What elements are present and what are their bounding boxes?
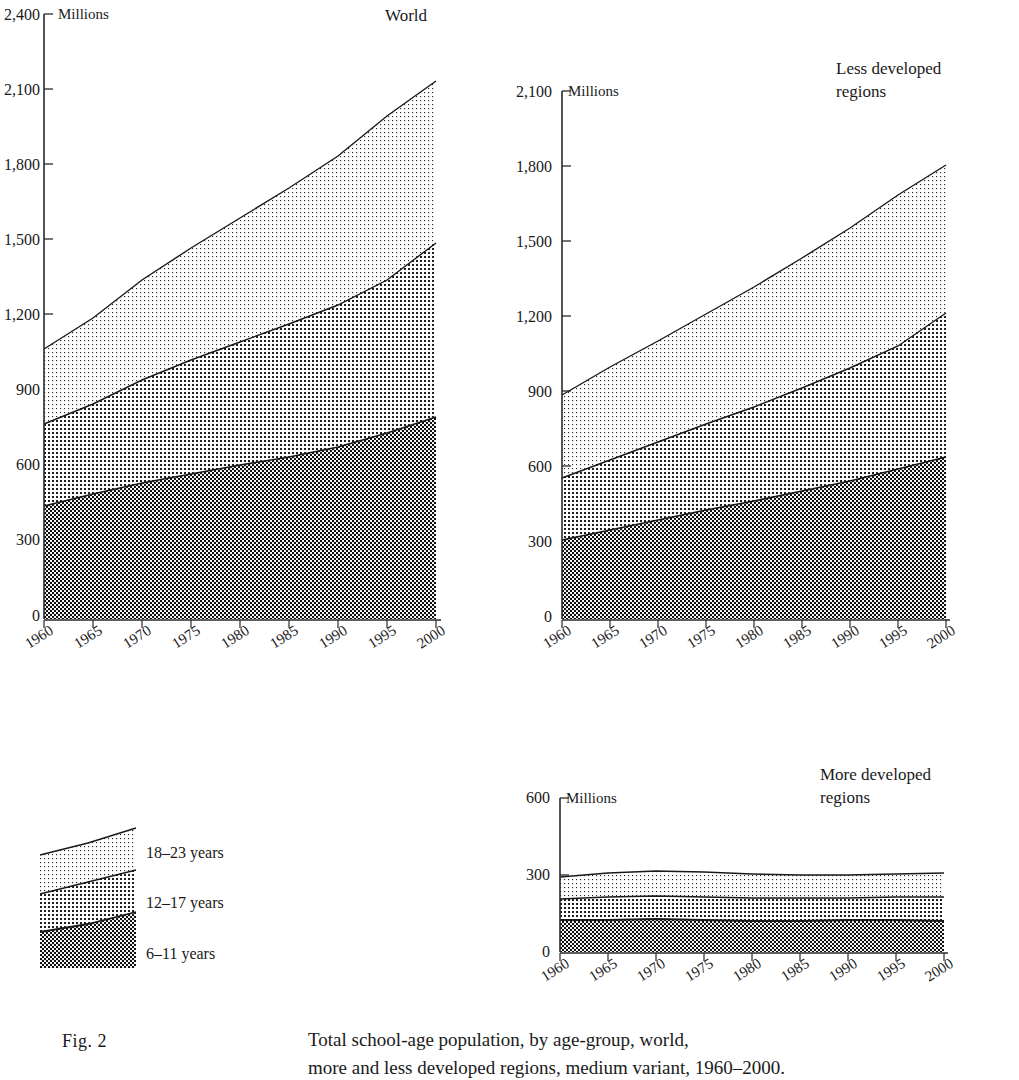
figure-number: Fig. 2 xyxy=(62,1031,107,1052)
legend-swatches xyxy=(0,790,180,970)
chart-panel-more-developed: More developed regions Millions 600 300 … xyxy=(500,755,1019,1005)
legend-label-12-17: 12–17 years xyxy=(146,894,224,912)
legend-label-18-23: 18–23 years xyxy=(146,844,224,862)
legend-label-6-11: 6–11 years xyxy=(146,945,215,963)
chart-panel-less-developed: Less developed regions Millions 2,100 1,… xyxy=(500,0,1019,690)
plot-area-less-developed xyxy=(500,0,1019,690)
legend: 18–23 years 12–17 years 6–11 years xyxy=(0,790,300,1000)
plot-area-world xyxy=(0,0,480,690)
chart-panel-world: World Millions 2,400 2,100 1,800 1,500 1… xyxy=(0,0,480,690)
area-md-6-11 xyxy=(560,919,944,952)
figure-caption: Total school-age population, by age-grou… xyxy=(308,1026,968,1080)
